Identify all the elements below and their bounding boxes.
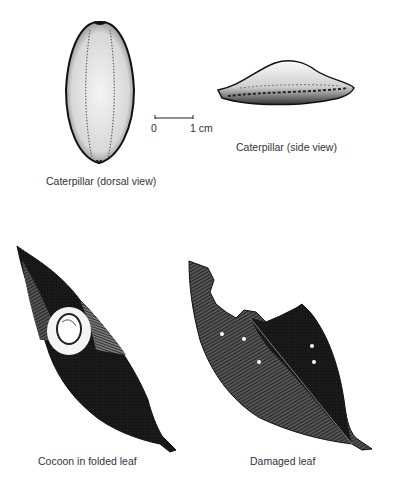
caption-damaged-leaf: Damaged leaf bbox=[250, 455, 315, 467]
caption-side-view: Caterpillar (side view) bbox=[236, 141, 337, 153]
caterpillar-dorsal-drawing bbox=[66, 22, 134, 163]
scale-end-label: 1 cm bbox=[190, 122, 213, 134]
damaged-leaf-drawing bbox=[189, 261, 372, 450]
caption-dorsal-view: Caterpillar (dorsal view) bbox=[46, 175, 156, 187]
cocoon-leaf-drawing bbox=[17, 246, 176, 452]
illustration-canvas bbox=[0, 0, 396, 483]
scale-start-label: 0 bbox=[151, 122, 157, 134]
caption-cocoon: Cocoon in folded leaf bbox=[38, 455, 137, 467]
scale-bar bbox=[155, 115, 193, 119]
caterpillar-side-drawing bbox=[218, 61, 354, 105]
